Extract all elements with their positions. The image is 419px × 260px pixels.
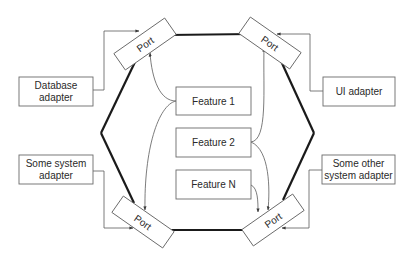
adapter-label-line1: Some other	[333, 158, 385, 169]
feature-label: Feature 2	[192, 137, 235, 148]
port-bottom-left: Port	[112, 196, 174, 248]
adapter-label-line2: adapter	[39, 92, 74, 103]
ui-adapter: UI adapter	[323, 77, 395, 106]
hexagonal-architecture-diagram: Port Port Port Port Database adapter UI …	[0, 0, 419, 260]
some-system-adapter: Some system adapter	[19, 155, 93, 184]
feature-label: Feature 1	[192, 96, 235, 107]
some-other-system-adapter: Some other system adapter	[322, 155, 395, 184]
feature-2: Feature 2	[176, 128, 251, 157]
adapter-label-line1: UI adapter	[336, 86, 383, 97]
adapter-label-line2: system adapter	[324, 170, 393, 181]
feature-label: Feature N	[191, 179, 235, 190]
database-adapter: Database adapter	[19, 77, 93, 106]
feature-n: Feature N	[176, 170, 251, 199]
port-top-right: Port	[239, 17, 301, 69]
adapter-label-line1: Some system	[26, 158, 87, 169]
feature-1: Feature 1	[176, 87, 251, 115]
adapter-label-line2: adapter	[39, 170, 74, 181]
adapter-label-line1: Database	[35, 80, 78, 91]
port-bottom-right: Port	[242, 194, 304, 246]
port-top-left: Port	[114, 18, 176, 70]
